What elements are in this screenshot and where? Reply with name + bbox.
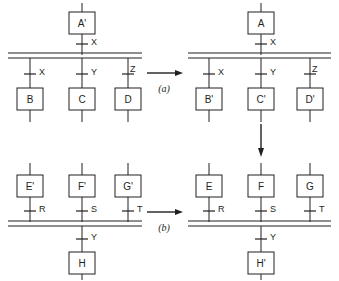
module-b-prime-label: B' [205,94,214,105]
panel-bottom-left: E' R F' S G' T [8,163,143,280]
signal-label-e-prime: R [39,204,46,214]
module-d[interactable]: Z D [115,58,141,122]
signal-label-a-prime: X [91,37,97,47]
signal-label-g: T [319,204,325,214]
signal-label-f: S [270,204,276,214]
step-arrow-a-head [175,70,183,76]
module-e[interactable]: E R [196,163,225,222]
diagram-svg: A' X X B Y [0,0,339,281]
module-f-label: F [258,181,264,192]
bus-bottom-left [8,221,142,226]
panel-top-right: A X X B' Y [188,3,331,122]
module-a-label: A [258,18,265,29]
module-g-prime-label: G' [123,181,133,192]
panel-top-left: A' X X B Y [8,3,142,122]
module-e-prime-label: E' [26,181,35,192]
module-g-prime[interactable]: G' T [115,163,143,222]
panel-bottom-right: E R F S G T [188,163,331,280]
module-a-prime-label: A' [78,18,87,29]
module-a-prime[interactable]: A' X [69,3,97,55]
module-h-label: H [78,258,85,269]
step-arrow-a: (a) [147,70,183,95]
signal-label-f-prime: S [91,204,97,214]
module-b-label: B [27,94,34,105]
signal-label-b-prime: X [218,67,224,77]
module-g[interactable]: G T [297,163,325,222]
signal-label-h-prime: Y [270,232,276,242]
step-arrow-vertical-head [258,148,264,157]
signal-label-b: X [39,67,45,77]
signal-label-h: Y [91,232,97,242]
module-f[interactable]: F S [248,163,276,222]
module-e-prime[interactable]: E' R [17,163,46,222]
step-arrow-b-head [175,209,183,215]
signal-label-d: Z [130,64,136,74]
module-a[interactable]: A X [248,3,276,55]
module-d-prime-label: D' [305,94,314,105]
figure-canvas: A' X X B Y [0,0,339,281]
module-c[interactable]: Y C [69,58,97,122]
module-c-prime-label: C' [256,94,265,105]
step-label-a: (a) [158,83,170,95]
signal-label-c-prime: Y [270,67,276,77]
bus-top-right [188,53,331,58]
step-label-b: (b) [158,222,170,234]
signal-label-a: X [270,37,276,47]
module-d-label: D [124,94,131,105]
step-arrow-b: (b) [147,209,183,234]
module-d-prime[interactable]: Z D' [297,58,323,122]
module-c-label: C [78,94,85,105]
module-b-prime[interactable]: X B' [196,58,224,122]
module-g-label: G [306,181,314,192]
signal-label-d-prime: Z [312,64,318,74]
module-f-prime[interactable]: F' S [69,163,97,222]
signal-label-e: R [218,204,225,214]
module-e-label: E [206,181,213,192]
step-arrow-vertical [258,124,264,157]
module-b[interactable]: X B [17,58,45,122]
signal-label-g-prime: T [137,204,143,214]
module-h[interactable]: Y H [69,226,97,280]
module-c-prime[interactable]: Y C' [248,58,276,122]
module-h-prime-label: H' [256,258,265,269]
signal-label-c: Y [91,67,97,77]
module-h-prime[interactable]: Y H' [248,226,276,280]
module-f-prime-label: F' [78,181,86,192]
bus-top-left [8,53,142,58]
